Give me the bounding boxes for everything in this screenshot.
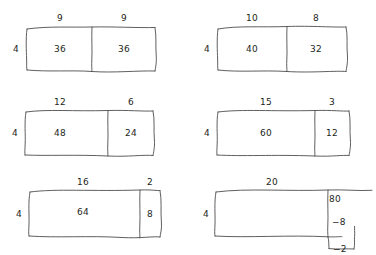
panel-1-top-label-0: 9	[57, 14, 63, 23]
panel-6-sketch	[188, 170, 376, 255]
panel-6-product-label: 80	[329, 195, 341, 204]
panel-5-cell-0: 64	[77, 208, 89, 217]
area-model-panel-3: 12 6 4 48 24	[0, 85, 188, 170]
panel-4-top-label-1: 3	[329, 98, 335, 107]
panel-3-cell-1: 24	[125, 129, 137, 138]
panel-3-top-label-1: 6	[128, 98, 134, 107]
panel-3-cell-0: 48	[54, 129, 66, 138]
area-model-panel-4: 15 3 4 60 12	[188, 85, 376, 170]
panel-2-cell-0: 40	[246, 45, 258, 54]
area-model-panel-5: 16 2 4 64 8	[0, 170, 188, 255]
panel-4-top-label-0: 15	[260, 98, 272, 107]
panel-4-cell-0: 60	[260, 129, 272, 138]
panel-2-cell-1: 32	[310, 45, 322, 54]
panel-4-cell-1: 12	[326, 129, 338, 138]
panel-3-left-factor: 4	[12, 129, 18, 138]
panel-2-top-label-1: 8	[313, 14, 319, 23]
panel-5-left-factor: 4	[16, 210, 22, 219]
panel-1-cell-1: 36	[118, 45, 130, 54]
panel-5-sketch	[0, 170, 188, 255]
panel-5-top-label-1: 2	[147, 178, 153, 187]
panel-4-sketch	[188, 85, 376, 170]
panel-4-left-factor: 4	[204, 129, 210, 138]
panel-1-top-label-1: 9	[121, 14, 127, 23]
panel-3-top-label-0: 12	[54, 98, 66, 107]
panel-6-minus-eight-label: −8	[332, 218, 346, 227]
area-model-panel-2: 10 8 4 40 32	[188, 0, 376, 85]
panel-2-left-factor: 4	[204, 45, 210, 54]
panel-3-sketch	[0, 85, 188, 170]
panel-6-minus-two-label: −2	[333, 245, 347, 254]
area-model-panel-1: 9 9 4 36 36	[0, 0, 188, 85]
diagram-sheet: 9 9 4 36 36 10 8 4 40 32	[0, 0, 376, 255]
panel-2-sketch	[188, 0, 376, 85]
panel-1-sketch	[0, 0, 188, 85]
panel-5-cell-1: 8	[147, 210, 153, 219]
area-model-panel-6: 20 4 80 −8 −2	[188, 170, 376, 255]
panel-1-left-factor: 4	[13, 45, 19, 54]
panel-6-left-factor: 4	[203, 210, 209, 219]
panel-6-top-label-0: 20	[266, 178, 278, 187]
panel-2-top-label-0: 10	[246, 14, 258, 23]
panel-5-top-label-0: 16	[77, 178, 89, 187]
panel-1-cell-0: 36	[54, 45, 66, 54]
